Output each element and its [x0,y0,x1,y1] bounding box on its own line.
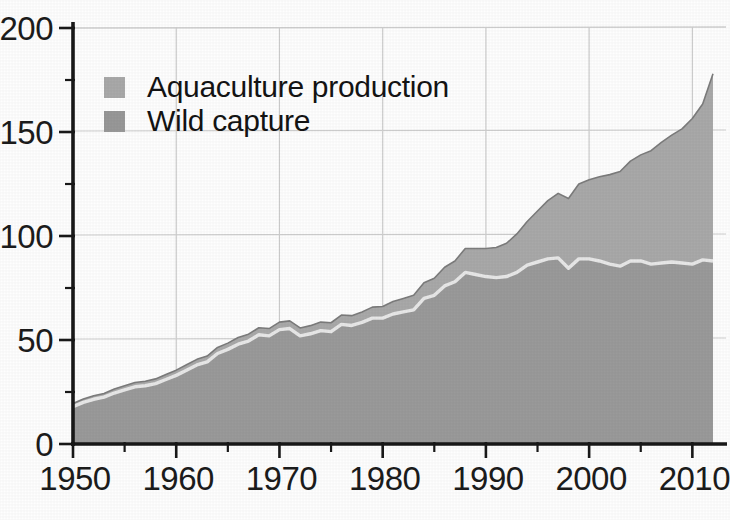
legend-item-aquaculture: Aquaculture production [104,72,449,102]
y-tick-label: 100 [0,218,53,255]
x-tick-label: 2000 [555,460,627,497]
x-tick-label: 1960 [143,460,215,497]
x-tick-label: 1970 [246,460,318,497]
legend-item-wild-capture: Wild capture [104,106,449,136]
x-tick-label: 1980 [349,460,421,497]
y-axis-tick-labels: 050100150200 [0,10,53,463]
x-axis-tick-labels: 1950196019701980199020002010 [39,460,730,497]
legend-label-wild-capture: Wild capture [147,106,310,136]
y-tick-label: 0 [35,426,53,463]
y-tick-label: 50 [17,322,53,359]
chart-legend: Aquaculture production Wild capture [104,72,449,136]
wild-capture-area [73,258,713,444]
fisheries-production-area-chart: 050100150200 195019601970198019902000201… [0,0,730,520]
legend-swatch-aquaculture [104,77,125,98]
x-tick-label: 1950 [39,460,111,497]
x-tick-label: 1990 [452,460,524,497]
y-tick-label: 200 [0,10,53,47]
y-tick-label: 150 [0,114,53,151]
legend-label-aquaculture: Aquaculture production [147,72,449,102]
x-tick-label: 2010 [659,460,730,497]
legend-swatch-wild-capture [104,111,125,132]
